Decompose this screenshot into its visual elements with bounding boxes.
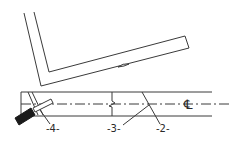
upper-member-outer-edge <box>24 13 189 86</box>
part-4-leader-line <box>40 110 50 124</box>
label-part-2: -2- <box>156 123 170 134</box>
arrow-mark-icon <box>118 64 129 67</box>
label-part-4: -4- <box>46 123 60 134</box>
tool-handle <box>15 108 35 125</box>
upper-member-end-cap <box>185 36 189 48</box>
centerline-symbol: ℄ <box>183 97 193 112</box>
part-3-leader-line <box>123 105 149 125</box>
upper-angled-member <box>24 12 189 86</box>
technical-diagram: -4- -3- -2- ℄ <box>0 0 240 146</box>
lower-bar <box>21 92 232 125</box>
break-line-icon <box>109 92 115 116</box>
upper-member-inner-edge <box>34 12 185 72</box>
label-part-3: -3- <box>107 123 121 134</box>
